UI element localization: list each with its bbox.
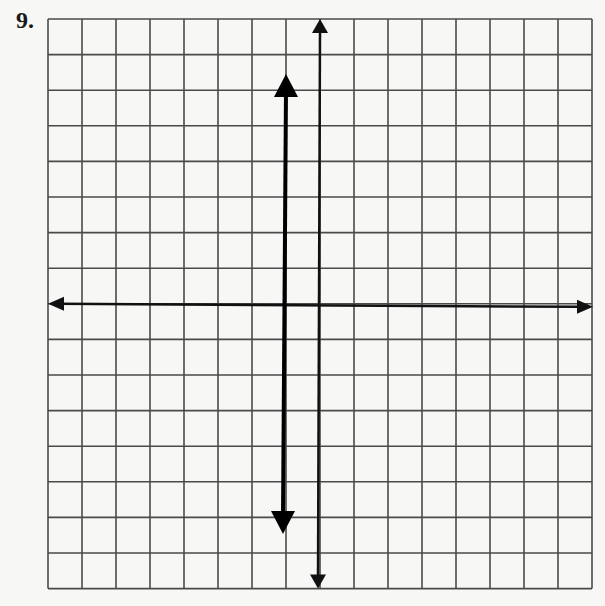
x-axis-left-arrow-icon	[48, 297, 64, 311]
y-axis-top-arrow-icon	[312, 19, 328, 33]
coordinate-grid	[0, 0, 605, 606]
line-bottom-arrow-icon	[271, 511, 295, 534]
line-top-arrow-icon	[274, 74, 298, 97]
y-axis-bottom-arrow-icon	[310, 575, 326, 589]
x-axis-right-arrow-icon	[577, 300, 593, 314]
